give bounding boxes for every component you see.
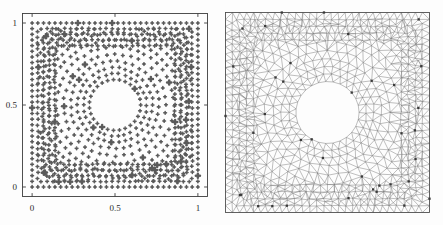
data-point [154, 73, 158, 77]
data-point [144, 185, 148, 189]
data-point [87, 21, 91, 25]
data-point [53, 86, 57, 90]
data-point [179, 21, 183, 25]
data-point [145, 123, 149, 127]
data-point [121, 53, 125, 57]
data-point [144, 103, 148, 107]
data-point [78, 89, 82, 93]
data-point [190, 21, 194, 25]
data-point [72, 133, 76, 137]
data-point [30, 77, 34, 81]
data-point [150, 158, 154, 162]
data-point [173, 185, 177, 189]
data-point [128, 82, 132, 86]
point-distribution-canvas [0, 0, 222, 225]
data-point [64, 21, 68, 25]
data-point [64, 185, 68, 189]
data-point [133, 21, 137, 25]
data-point [89, 58, 93, 62]
data-point [190, 47, 194, 51]
mesh-node-marker [257, 205, 259, 207]
data-point [47, 185, 51, 189]
mesh-node-marker [408, 180, 410, 182]
data-point [47, 91, 51, 95]
data-point [184, 82, 188, 86]
data-point [30, 38, 34, 42]
data-point [184, 76, 188, 80]
data-point [190, 30, 194, 34]
data-point [111, 128, 115, 132]
data-point [80, 26, 84, 30]
data-point [96, 136, 100, 140]
data-point [76, 185, 80, 189]
data-point [99, 21, 103, 25]
data-point [74, 156, 78, 160]
data-point [122, 146, 126, 150]
data-point [67, 178, 74, 185]
data-point [123, 67, 127, 71]
data-point [76, 126, 80, 130]
data-point [55, 178, 62, 185]
data-point [161, 21, 165, 25]
data-point [196, 157, 200, 161]
data-point [87, 100, 91, 104]
data-point [134, 27, 138, 31]
data-point [190, 82, 194, 86]
data-point [123, 138, 127, 142]
data-point [116, 27, 120, 31]
data-point [36, 135, 40, 139]
data-point [139, 21, 143, 25]
data-point [82, 96, 86, 100]
data-point [166, 154, 170, 158]
data-point [30, 134, 34, 138]
data-point [185, 165, 189, 169]
data-point [196, 100, 200, 104]
data-point [47, 143, 51, 147]
data-point [142, 52, 146, 56]
data-point [146, 131, 150, 135]
data-point [30, 151, 34, 155]
data-point [69, 98, 73, 102]
data-point [157, 97, 161, 101]
data-point [86, 32, 90, 36]
data-point [35, 47, 39, 51]
data-point [122, 133, 126, 137]
data-point [135, 73, 139, 77]
data-point [90, 43, 94, 47]
data-point [110, 134, 114, 138]
data-point [173, 21, 177, 25]
data-point [98, 144, 102, 148]
data-point [139, 185, 143, 189]
data-point [185, 47, 189, 51]
data-point [150, 66, 154, 70]
data-point [75, 57, 79, 61]
data-point [144, 96, 148, 100]
data-point [147, 162, 151, 166]
data-point [190, 176, 194, 180]
data-point [141, 91, 145, 95]
data-point [149, 56, 153, 60]
data-point [181, 27, 185, 31]
data-point [30, 43, 34, 47]
data-point [156, 112, 160, 116]
data-point [138, 109, 142, 113]
x-tick-label-0.5: 0.5 [109, 204, 120, 213]
data-point [39, 180, 43, 184]
mesh-node-marker [414, 158, 416, 160]
data-point [181, 179, 185, 183]
data-point [68, 151, 72, 155]
data-point [47, 21, 51, 25]
data-point [195, 172, 202, 179]
data-point [105, 152, 109, 156]
data-point [76, 76, 83, 83]
data-point [30, 117, 34, 121]
data-point [131, 85, 138, 92]
data-point [179, 185, 183, 189]
data-point [133, 185, 137, 189]
data-point [113, 52, 117, 56]
data-point [142, 137, 146, 141]
mesh-node-marker [282, 80, 284, 82]
data-point [119, 38, 123, 42]
data-point [196, 27, 200, 31]
data-point [115, 59, 119, 63]
